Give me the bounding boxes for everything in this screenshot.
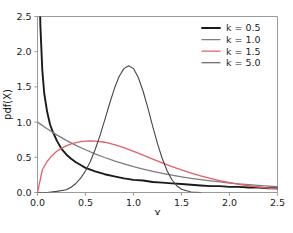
y-tick-label: 0.5 (16, 152, 31, 163)
y-tick-label: 1.0 (16, 117, 31, 128)
chart-figure: 0.00.51.01.52.02.50.00.51.01.52.02.5Xpdf… (0, 0, 293, 215)
x-tick-label: 0.5 (78, 197, 93, 208)
y-tick-label: 2.0 (16, 46, 31, 57)
legend-label-2: k = 1.5 (226, 46, 261, 57)
x-tick-label: 2.0 (222, 197, 237, 208)
y-tick-label: 1.5 (16, 81, 31, 92)
x-axis-title: X (154, 209, 161, 216)
y-tick-label: 0.0 (16, 187, 31, 198)
x-tick-label: 0.0 (30, 197, 45, 208)
figure-page: 0.00.51.01.52.02.50.00.51.01.52.02.5Xpdf… (0, 0, 293, 233)
legend-label-3: k = 5.0 (226, 57, 261, 68)
series-line-3 (38, 66, 201, 193)
weibull-pdf-chart: 0.00.51.01.52.02.50.00.51.01.52.02.5Xpdf… (0, 0, 293, 215)
y-tick-label: 2.5 (16, 11, 31, 22)
y-axis-title: pdf(X) (2, 89, 13, 120)
x-tick-label: 1.5 (174, 197, 189, 208)
x-tick-label: 1.0 (126, 197, 141, 208)
caption-strip (0, 217, 293, 233)
legend-label-0: k = 0.5 (226, 22, 261, 33)
x-tick-label: 2.5 (270, 197, 285, 208)
legend-label-1: k = 1.0 (226, 34, 261, 45)
series-line-1 (38, 122, 278, 187)
